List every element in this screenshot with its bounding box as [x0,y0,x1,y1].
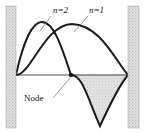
label-node: Node [24,93,44,103]
figure-canvas: n=2 n=1 Node [0,0,148,134]
label-n2: n=2 [53,5,69,15]
node-marker [69,73,73,77]
figure-background [0,0,148,134]
wavefunction-figure: n=2 n=1 Node [0,0,148,134]
left-wall [6,6,16,128]
label-n1: n=1 [89,5,104,15]
right-wall [128,6,139,128]
